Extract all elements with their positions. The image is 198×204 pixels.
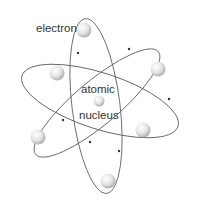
nucleus-label-line2: nucleus [79,110,119,122]
orbit-arrow [77,52,79,54]
orbit-arrow [168,98,170,100]
orbit-arrow [118,150,120,152]
orbit-arrow [62,119,64,121]
orbit-arrow [128,48,130,50]
orbit-vertical [61,16,130,197]
electron [101,174,116,189]
orbit-arrow [89,141,91,143]
electron [77,23,92,38]
electron [31,130,46,145]
nucleus-label-line1: atomic [81,84,115,96]
nucleus [94,96,105,107]
electron [136,123,151,138]
electron [151,62,166,77]
electron [50,66,65,81]
atom-diagram [0,0,198,204]
electron-label: electron [36,23,77,35]
